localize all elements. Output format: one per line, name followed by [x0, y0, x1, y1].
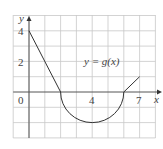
y-tick-2: 2 — [18, 56, 24, 68]
x-tick-7: 7 — [136, 94, 142, 106]
y-axis-label: y — [18, 12, 24, 24]
y-tick-4: 4 — [18, 25, 24, 37]
y-axis-arrow-icon — [27, 16, 32, 21]
x-tick-4: 4 — [89, 94, 95, 106]
x-axis-label: x — [153, 93, 159, 105]
grid — [13, 15, 155, 138]
graph-of-g: y x 0 4 7 4 2 y = g(x) — [0, 0, 163, 149]
curve-label: y = g(x) — [83, 55, 120, 68]
origin-label: 0 — [18, 94, 24, 106]
